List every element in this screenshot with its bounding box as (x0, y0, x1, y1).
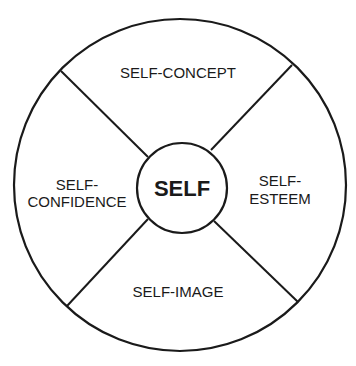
segment-bottom-label: SELF-IMAGE (133, 283, 224, 300)
segment-right-label-line1: SELF- (259, 172, 302, 189)
segment-right-label-line2: ESTEEM (249, 190, 311, 207)
segment-left-label-line1: SELF- (56, 176, 99, 193)
self-wheel-diagram: SELF SELF-CONCEPT SELF- ESTEEM SELF-IMAG… (0, 0, 356, 366)
divider-bottom-right (214, 221, 298, 302)
segment-left-label-line2: CONFIDENCE (27, 193, 126, 210)
center-label: SELF (154, 176, 210, 201)
divider-top-left (61, 71, 148, 157)
segment-top-label: SELF-CONCEPT (120, 64, 236, 81)
